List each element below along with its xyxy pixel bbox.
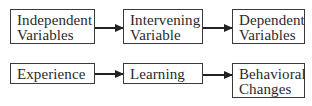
box-intervening-variable: Intervening Variable [123, 9, 203, 44]
box-label-line: Intervening [130, 13, 202, 28]
box-label-line: Independent [17, 13, 94, 28]
box-behavioral-changes: Behavioral Changes [232, 63, 305, 98]
box-independent-variables: Independent Variables [10, 9, 95, 44]
box-label-line: Variables [239, 28, 304, 43]
box-label-line: Behavioral [239, 67, 304, 82]
arrow-right-icon [95, 27, 123, 29]
box-experience: Experience [10, 63, 95, 84]
box-label-line: Experience [17, 67, 94, 82]
box-label-line: Dependent [239, 13, 304, 28]
box-label-line: Changes [239, 82, 304, 97]
box-label-line: Variable [130, 28, 202, 43]
box-dependent-variables: Dependent Variables [232, 9, 305, 44]
box-label-line: Variables [17, 28, 94, 43]
arrow-right-icon [95, 73, 123, 75]
box-label-line: Learning [130, 67, 202, 82]
box-learning: Learning [123, 63, 203, 84]
arrow-right-icon [203, 74, 232, 76]
arrow-right-icon [203, 27, 232, 29]
